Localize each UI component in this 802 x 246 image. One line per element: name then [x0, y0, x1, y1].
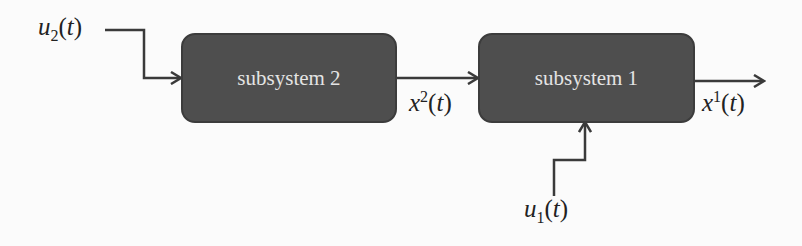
block-diagram: subsystem 2 subsystem 1 u2(t) x2(t) x1(t…: [0, 0, 802, 246]
subsystem-2-label: subsystem 2: [237, 66, 340, 91]
signal-x1-label: x1(t): [702, 88, 745, 117]
arrow-u1-to-subsystem1: [554, 123, 585, 196]
signal-x2-label: x2(t): [409, 88, 452, 117]
subsystem-1-block: subsystem 1: [478, 33, 695, 123]
signal-u2-label: u2(t): [38, 13, 82, 45]
arrow-u2-to-subsystem2: [105, 30, 180, 78]
signal-u1-label: u1(t): [524, 195, 568, 227]
subsystem-2-block: subsystem 2: [181, 33, 397, 123]
subsystem-1-label: subsystem 1: [535, 66, 638, 91]
